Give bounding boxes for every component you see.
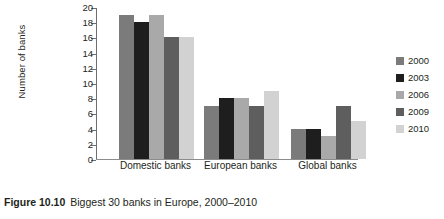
legend: 20002003200620092010 (396, 52, 444, 137)
y-axis-tick-label: 6 (88, 108, 93, 119)
bars-layer (97, 8, 356, 159)
bar (306, 129, 321, 159)
legend-swatch (396, 125, 404, 133)
bar (264, 91, 279, 159)
y-axis-tick-label: 2 (88, 139, 93, 150)
legend-label: 2006 (408, 90, 429, 100)
legend-item: 2006 (396, 86, 444, 103)
legend-item: 2000 (396, 52, 444, 69)
bar (164, 37, 179, 159)
caption-text: Biggest 30 banks in Europe, 2000–2010 (70, 196, 257, 208)
y-axis-tick-label: 18 (82, 17, 93, 28)
legend-label: 2000 (408, 56, 429, 66)
y-axis-tick-label: 20 (82, 2, 93, 13)
legend-item: 2010 (396, 120, 444, 137)
bar-group (119, 8, 194, 159)
figure-caption: Figure 10.10Biggest 30 banks in Europe, … (4, 196, 257, 209)
bar (234, 98, 249, 159)
bar (321, 136, 336, 159)
y-axis-tick-label: 10 (82, 78, 93, 89)
caption-figure-number: Figure 10.10 (4, 196, 65, 208)
bar (351, 121, 366, 159)
x-axis-category-label: Global banks (268, 160, 388, 171)
bar-chart: Number of banks 02468101214161820 Domest… (0, 0, 444, 190)
figure-root: Number of banks 02468101214161820 Domest… (0, 0, 444, 219)
bar (179, 37, 194, 159)
bar (249, 106, 264, 159)
y-axis-tick-label: 16 (82, 32, 93, 43)
bar (204, 106, 219, 159)
bar (134, 22, 149, 159)
y-axis-tick-label: 8 (88, 93, 93, 104)
legend-label: 2009 (408, 107, 429, 117)
legend-swatch (396, 74, 404, 82)
plot-area: 02468101214161820 (96, 8, 356, 160)
bar (291, 129, 306, 159)
bar (219, 98, 234, 159)
legend-swatch (396, 57, 404, 65)
legend-item: 2009 (396, 103, 444, 120)
bar (149, 15, 164, 159)
bar (336, 106, 351, 159)
legend-swatch (396, 91, 404, 99)
legend-label: 2003 (408, 73, 429, 83)
bar (119, 15, 134, 159)
bar-group (204, 8, 279, 159)
y-axis-tick-label: 14 (82, 48, 93, 59)
y-axis-title: Number of banks (16, 0, 27, 127)
bar-group (291, 8, 366, 159)
y-axis-tick-label: 4 (88, 124, 93, 135)
y-axis-tick-label: 0 (88, 154, 93, 165)
legend-label: 2010 (408, 124, 429, 134)
legend-swatch (396, 108, 404, 116)
legend-item: 2003 (396, 69, 444, 86)
y-axis-tick-label: 12 (82, 63, 93, 74)
